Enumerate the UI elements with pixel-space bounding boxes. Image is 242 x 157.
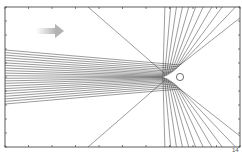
axis-exponent-label: 14 [232, 147, 239, 153]
scattering-center [176, 73, 183, 80]
trajectory-lines [5, 0, 242, 157]
trajectory-diagram [0, 0, 242, 157]
incoming-direction-arrow [36, 24, 64, 38]
